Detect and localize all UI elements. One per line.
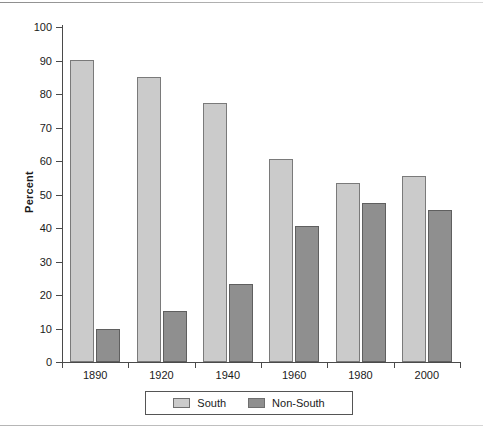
bar-1980-south[interactable] xyxy=(336,183,360,362)
y-tick-label-10: 10 xyxy=(0,324,52,335)
y-tick-label-90: 90 xyxy=(0,56,52,67)
x-tick-6 xyxy=(460,362,461,368)
x-tick-4 xyxy=(327,362,328,368)
y-tick-label-60: 60 xyxy=(0,156,52,167)
x-tick-label-1920: 1920 xyxy=(132,370,192,381)
chart-legend: South Non-South xyxy=(145,391,353,415)
bar-1960-south[interactable] xyxy=(269,159,293,362)
bar-2000-south[interactable] xyxy=(402,176,426,362)
x-tick-2 xyxy=(195,362,196,368)
bar-1920-non-south[interactable] xyxy=(163,311,187,362)
chart-page: Percent 0102030405060708090100 189019201… xyxy=(0,0,483,435)
legend-swatch-non-south-icon xyxy=(248,398,265,408)
x-tick-label-1940: 1940 xyxy=(198,370,258,381)
x-tick-1 xyxy=(128,362,129,368)
y-tick-label-70: 70 xyxy=(0,123,52,134)
plot-area xyxy=(62,27,460,362)
x-tick-label-1890: 1890 xyxy=(65,370,125,381)
bar-1890-non-south[interactable] xyxy=(96,329,120,363)
page-bottom-rule xyxy=(0,425,483,426)
x-tick-label-2000: 2000 xyxy=(397,370,457,381)
bar-1940-south[interactable] xyxy=(203,103,227,362)
bar-1980-non-south[interactable] xyxy=(362,203,386,362)
y-tick-label-30: 30 xyxy=(0,257,52,268)
y-tick-label-50: 50 xyxy=(0,190,52,201)
legend-item-south[interactable]: South xyxy=(173,398,226,409)
legend-item-non-south[interactable]: Non-South xyxy=(248,398,325,409)
y-tick-label-40: 40 xyxy=(0,223,52,234)
bar-1920-south[interactable] xyxy=(137,77,161,362)
legend-label-non-south: Non-South xyxy=(272,398,325,409)
x-tick-0 xyxy=(62,362,63,368)
x-tick-3 xyxy=(261,362,262,368)
x-tick-label-1980: 1980 xyxy=(331,370,391,381)
y-tick-label-80: 80 xyxy=(0,89,52,100)
page-top-rule xyxy=(0,2,483,3)
y-tick-label-0: 0 xyxy=(0,357,52,368)
y-tick-label-20: 20 xyxy=(0,290,52,301)
bar-2000-non-south[interactable] xyxy=(428,210,452,362)
legend-swatch-south-icon xyxy=(173,398,190,408)
y-tick-label-100: 100 xyxy=(0,22,52,33)
x-tick-5 xyxy=(394,362,395,368)
x-tick-label-1960: 1960 xyxy=(264,370,324,381)
bar-1890-south[interactable] xyxy=(70,60,94,363)
bar-1960-non-south[interactable] xyxy=(295,226,319,362)
legend-label-south: South xyxy=(197,398,226,409)
bar-1940-non-south[interactable] xyxy=(229,284,253,362)
